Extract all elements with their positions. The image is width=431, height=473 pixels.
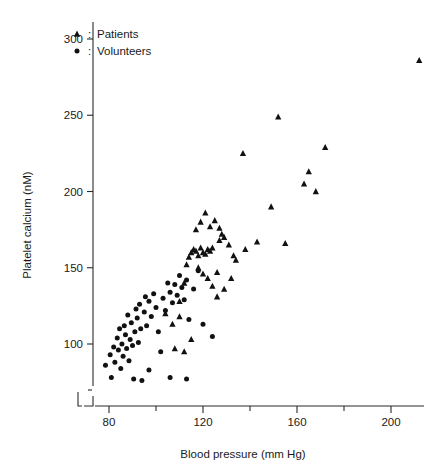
data-point-circle xyxy=(109,375,114,380)
legend-separator: : xyxy=(88,45,91,57)
y-tick-label: 150 xyxy=(64,262,83,274)
data-point-circle xyxy=(179,285,184,290)
data-point-triangle xyxy=(183,261,189,267)
data-point-circle xyxy=(138,326,143,331)
data-point-circle xyxy=(119,342,124,347)
data-point-triangle xyxy=(216,237,222,243)
data-point-circle xyxy=(201,322,206,327)
data-point-triangle xyxy=(176,298,182,304)
data-point-circle xyxy=(182,297,187,302)
data-point-triangle xyxy=(181,348,187,354)
data-point-circle xyxy=(146,367,151,372)
data-point-triangle xyxy=(198,219,204,225)
data-point-circle xyxy=(134,306,139,311)
data-point-circle xyxy=(75,49,80,54)
data-point-circle xyxy=(118,366,123,371)
data-point-circle xyxy=(154,305,159,310)
data-point-circle xyxy=(175,293,180,298)
data-point-circle xyxy=(129,320,134,325)
x-tick-label: 120 xyxy=(193,416,212,428)
data-point-triangle xyxy=(240,150,246,156)
y-axis: 100150200250300 Platelet calcium (nM) xyxy=(21,22,93,406)
x-axis: 80120160200 Blood pressure (mm Hg) xyxy=(78,392,424,460)
data-point-circle xyxy=(146,299,151,304)
data-point-circle xyxy=(184,377,189,382)
data-point-circle xyxy=(149,314,154,319)
data-point-triangle xyxy=(275,113,281,119)
x-axis-title: Blood pressure (mm Hg) xyxy=(180,448,305,460)
series-patients xyxy=(162,57,422,354)
data-point-circle xyxy=(168,375,173,380)
data-point-circle xyxy=(111,345,116,350)
data-point-circle xyxy=(137,302,142,307)
y-tick-label: 250 xyxy=(64,109,83,121)
data-point-circle xyxy=(117,326,122,331)
y-axis-title: Platelet calcium (nM) xyxy=(21,171,33,279)
data-point-circle xyxy=(112,360,117,365)
y-axis-break-stub xyxy=(84,396,93,406)
data-point-triangle xyxy=(172,345,178,351)
data-point-circle xyxy=(151,291,156,296)
data-point-triangle xyxy=(416,57,422,63)
data-point-triangle xyxy=(214,269,220,275)
data-point-circle xyxy=(128,337,133,342)
x-tick-label-group: 80120160200 xyxy=(103,416,401,428)
data-point-triangle xyxy=(242,246,248,252)
data-point-circle xyxy=(108,352,113,357)
data-point-circle xyxy=(177,273,182,278)
data-point-triangle xyxy=(306,168,312,174)
data-point-circle xyxy=(191,287,196,292)
x-tick-label: 80 xyxy=(103,416,116,428)
data-point-circle xyxy=(124,346,129,351)
data-point-circle xyxy=(210,334,215,339)
data-point-circle xyxy=(136,340,141,345)
data-point-triangle xyxy=(209,245,215,251)
data-point-circle xyxy=(116,348,121,353)
data-point-circle xyxy=(186,317,191,322)
data-point-circle xyxy=(126,358,131,363)
data-point-circle xyxy=(172,282,177,287)
y-tick-label: 200 xyxy=(64,186,83,198)
data-point-triangle xyxy=(207,223,213,229)
data-point-triangle xyxy=(301,180,307,186)
data-point-triangle xyxy=(221,286,227,292)
data-point-triangle xyxy=(212,217,218,223)
data-point-circle xyxy=(121,354,126,359)
data-point-circle xyxy=(132,329,137,334)
x-axis-break-stub xyxy=(78,392,82,406)
data-point-triangle xyxy=(268,203,274,209)
data-point-triangle xyxy=(282,240,288,246)
data-point-circle xyxy=(122,323,127,328)
data-point-circle xyxy=(158,349,163,354)
data-point-circle xyxy=(131,377,136,382)
y-tick-group xyxy=(87,39,93,390)
data-point-circle xyxy=(143,294,148,299)
data-point-triangle xyxy=(200,270,206,276)
data-point-triangle xyxy=(226,241,232,247)
data-point-circle xyxy=(156,329,161,334)
y-tick-label: 300 xyxy=(64,33,83,45)
data-point-triangle xyxy=(254,238,260,244)
data-point-circle xyxy=(168,290,173,295)
data-point-triangle xyxy=(216,225,222,231)
x-tick-label: 160 xyxy=(287,416,306,428)
data-point-triangle xyxy=(195,264,201,270)
legend-label-patients: Patients xyxy=(97,28,139,40)
x-tick-group xyxy=(109,406,391,413)
data-point-circle xyxy=(144,323,149,328)
legend-label-volunteers: Volunteers xyxy=(97,45,152,57)
y-tick-label-group: 100150200250300 xyxy=(64,33,83,350)
data-point-triangle xyxy=(313,188,319,194)
data-point-circle xyxy=(103,363,108,368)
data-point-triangle xyxy=(202,209,208,215)
x-tick-label: 200 xyxy=(381,416,400,428)
y-tick-label: 100 xyxy=(64,338,83,350)
data-point-triangle xyxy=(176,313,182,319)
data-point-triangle xyxy=(322,144,328,150)
series-volunteers xyxy=(103,268,215,383)
scatter-chart: 100150200250300 Platelet calcium (nM) 80… xyxy=(0,0,431,473)
data-point-circle xyxy=(142,309,147,314)
data-point-triangle xyxy=(169,321,175,327)
data-point-triangle xyxy=(209,283,215,289)
data-point-triangle xyxy=(193,226,199,232)
